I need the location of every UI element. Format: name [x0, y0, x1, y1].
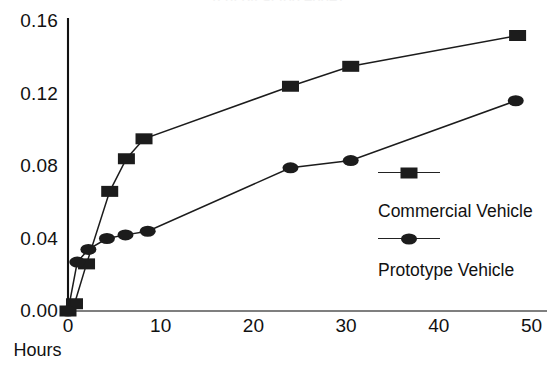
legend-line-commercial	[378, 172, 440, 173]
x-axis-title: Hours	[0, 340, 555, 361]
circle-marker-icon	[401, 234, 417, 245]
legend-entry-prototype[interactable]	[378, 238, 440, 239]
data-point-square	[136, 133, 153, 144]
data-point-square	[101, 186, 118, 197]
data-point-square	[509, 30, 526, 41]
data-point-circle	[80, 244, 96, 255]
data-point-circle	[508, 95, 524, 106]
data-point-circle	[99, 233, 115, 244]
data-point-circle	[117, 229, 133, 240]
data-point-circle	[140, 226, 156, 237]
data-point-circle	[60, 306, 76, 317]
data-point-square	[342, 61, 359, 72]
plot-area	[0, 0, 555, 369]
line-chart: (cut off at top edge) 0.000.040.080.120.…	[0, 0, 555, 369]
x-axis-title-text: Hours	[13, 340, 61, 360]
data-point-circle	[282, 162, 298, 173]
legend-line-prototype	[378, 238, 440, 239]
data-point-circle	[69, 257, 85, 268]
square-marker-icon	[401, 168, 418, 179]
data-point-square	[282, 81, 299, 92]
legend-label-commercial: Commercial Vehicle	[378, 201, 533, 222]
legend-label-prototype: Prototype Vehicle	[378, 260, 514, 281]
data-point-square	[118, 153, 135, 164]
legend-entry-commercial[interactable]	[378, 172, 440, 173]
data-point-circle	[343, 155, 359, 166]
